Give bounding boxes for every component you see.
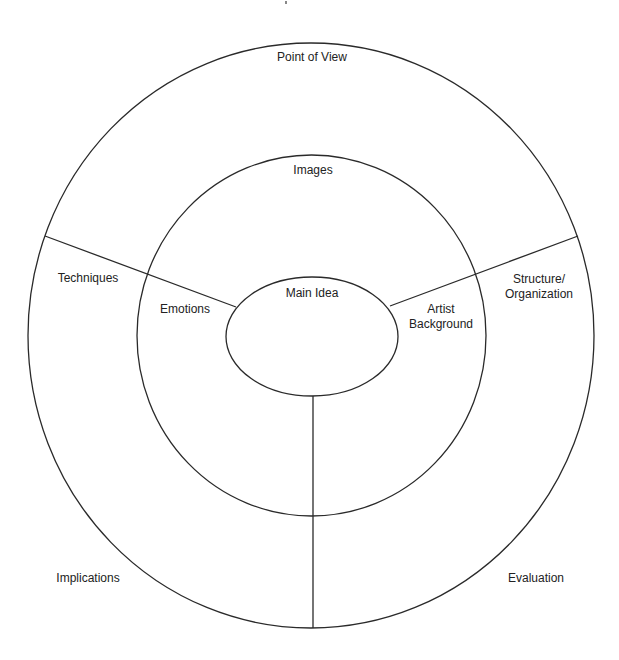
outer-right-label: Structure/ Organization [505, 272, 573, 302]
outer-right-label-line2: Organization [505, 287, 573, 302]
outer-bottom-right-label: Evaluation [508, 571, 564, 586]
inner-right-label: Artist Background [409, 302, 473, 332]
concentric-diagram [0, 0, 619, 660]
outer-left-label: Techniques [58, 271, 119, 286]
inner-right-label-line1: Artist [409, 302, 473, 317]
outer-ring [28, 43, 594, 628]
outer-bottom-left-label: Implications [56, 571, 119, 586]
center-label: Main Idea [286, 286, 339, 301]
inner-ring [137, 155, 486, 516]
inner-top-label: Images [293, 163, 332, 178]
inner-left-label: Emotions [160, 302, 210, 317]
outer-top-label: Point of View [277, 50, 347, 65]
outer-right-label-line1: Structure/ [505, 272, 573, 287]
inner-right-label-line2: Background [409, 317, 473, 332]
